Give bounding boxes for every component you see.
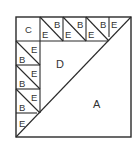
- label-e-left-1: E: [31, 44, 37, 55]
- label-e-top-4: E: [111, 19, 117, 30]
- label-b-top-1: B: [54, 19, 60, 30]
- label-b-left-1: B: [19, 54, 25, 65]
- quilt-block-diagram: C E B E B E B E E B E B E B E D A: [0, 0, 140, 150]
- label-e-top-2: E: [65, 29, 71, 40]
- label-e-top-3: E: [88, 29, 94, 40]
- label-e-left-2: E: [31, 68, 37, 79]
- label-c: C: [25, 24, 32, 35]
- label-b-top-3: B: [100, 19, 106, 30]
- label-e-top-1: E: [42, 29, 48, 40]
- label-e-left-3: E: [31, 92, 37, 103]
- label-b-left-3: B: [19, 102, 25, 113]
- label-a: A: [93, 98, 101, 110]
- label-e-left-4: E: [19, 118, 25, 129]
- label-d: D: [56, 58, 64, 70]
- label-b-left-2: B: [19, 78, 25, 89]
- label-b-top-2: B: [77, 19, 83, 30]
